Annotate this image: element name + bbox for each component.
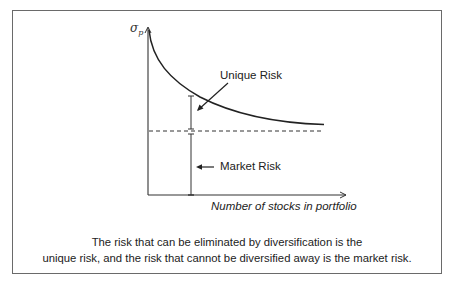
unique-risk-label: Unique Risk: [220, 69, 282, 81]
caption-line-2: unique risk, and the risk that cannot be…: [12, 251, 442, 267]
y-axis-label: σp: [130, 21, 143, 37]
market-risk-label: Market Risk: [220, 160, 281, 172]
caption-line-1: The risk that can be eliminated by diver…: [12, 235, 442, 251]
market-risk-arrowhead-icon: [196, 164, 202, 169]
figure-caption: The risk that can be eliminated by diver…: [12, 235, 442, 266]
x-axis-label: Number of stocks in portfolio: [211, 200, 357, 212]
unique-risk-arrow-icon: [198, 83, 228, 110]
